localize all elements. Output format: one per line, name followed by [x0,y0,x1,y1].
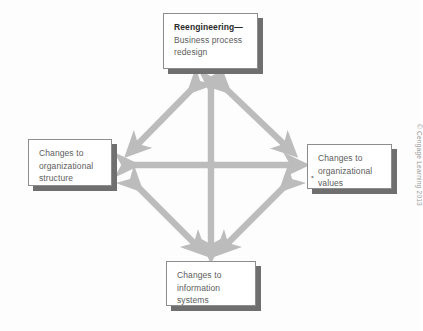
node-organizational-values-line-1: Changes to [318,152,382,165]
node-organizational-values-line-2: organizational [318,165,382,178]
node-organizational-structure-line-2: organizational [39,160,102,173]
arrow-top-to-left [134,85,196,148]
node-information-systems-line-2: information [177,282,246,295]
bullet-mark-icon: • [311,172,314,182]
node-information-systems-line-3: systems [177,294,246,307]
copyright-credit: © Cengage Learning 2013 [416,124,423,206]
node-reengineering-line-3: redesign [174,46,248,59]
node-reengineering-line-1: Reengineering— [174,21,248,34]
arrow-left-to-bottom [134,183,198,247]
node-organizational-structure-line-1: Changes to [39,147,102,160]
arrow-top-to-right [222,85,288,148]
node-reengineering[interactable]: Reengineering— Business process redesign [163,13,258,69]
node-organizational-structure[interactable]: Changes to organizational structure [28,139,112,186]
node-information-systems-line-1: Changes to [177,269,246,282]
node-organizational-structure-line-3: structure [39,172,102,185]
node-reengineering-line-2: Business process [174,34,248,47]
node-organizational-values-line-3: values [318,177,382,190]
arrow-right-to-bottom [224,183,288,247]
node-organizational-values[interactable]: • Changes to organizational values [307,144,392,189]
node-information-systems[interactable]: Changes to information systems [166,261,256,306]
